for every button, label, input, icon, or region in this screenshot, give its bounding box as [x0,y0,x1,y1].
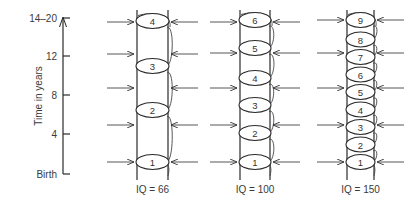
stage-oval: 2 [136,103,169,118]
time-axis: 14–201284Birth Time in years [29,13,70,180]
stage-oval: 4 [239,71,271,86]
stage-oval: 5 [239,41,271,56]
stage-number: 6 [358,70,363,81]
stage-oval: 1 [346,155,375,170]
development-spiral [138,14,172,176]
axis-title: Time in years [33,66,44,126]
stage-oval: 2 [239,126,271,141]
stage-oval: 6 [239,13,271,28]
stage-oval: 4 [136,14,169,29]
iq-column: 123456789IQ = 150 [317,10,404,195]
iq-label: IQ = 150 [341,184,380,195]
stage-number: 2 [150,105,155,116]
iq-label: IQ = 100 [236,184,275,195]
stage-number: 4 [252,73,257,84]
stage-oval: 3 [346,120,375,135]
stage-number: 5 [358,87,363,98]
stage-number: 1 [358,157,363,168]
iq-development-diagram: 14–201284Birth Time in years 1234IQ = 66… [0,0,418,203]
stage-number: 2 [358,140,363,151]
stage-number: 4 [150,16,155,27]
axis-tick-label: 14–20 [29,13,57,24]
stage-oval: 3 [136,59,169,74]
stage-number: 1 [150,157,155,168]
axis-tick-label: Birth [36,169,57,180]
stage-number: 6 [252,15,257,26]
stage-number: 4 [358,105,363,116]
stage-oval: 9 [346,13,375,28]
stage-number: 3 [150,61,155,72]
stage-number: 9 [358,15,363,26]
stage-oval: 1 [239,155,271,170]
iq-columns: 1234IQ = 66123456IQ = 100123456789IQ = 1… [107,10,404,195]
stage-number: 3 [252,100,257,111]
stage-number: 1 [252,157,257,168]
iq-label: IQ = 66 [136,184,170,195]
stage-number: 2 [252,128,257,139]
stage-number: 3 [358,122,363,133]
iq-column: 123456IQ = 100 [210,10,300,195]
axis-tick-label: 4 [51,129,57,140]
stage-oval: 7 [346,50,375,65]
stage-oval: 3 [239,98,271,113]
stage-oval: 5 [346,85,375,100]
stage-oval: 2 [346,137,375,152]
axis-tick-label: 12 [46,51,58,62]
stage-number: 7 [358,52,363,63]
stage-oval: 6 [346,67,375,82]
stage-oval: 8 [346,32,375,47]
iq-column: 1234IQ = 66 [107,10,198,195]
stage-number: 8 [358,35,363,46]
stage-oval: 4 [346,102,375,117]
stage-oval: 1 [136,155,169,170]
stage-number: 5 [252,43,257,54]
development-spiral [241,13,274,176]
axis-tick-label: 8 [51,90,57,101]
